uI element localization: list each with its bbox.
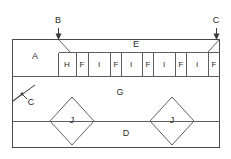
strip-cell-label-9: F	[212, 60, 217, 69]
strip-cell-label-5: F	[146, 60, 151, 69]
region-e-label: E	[133, 39, 139, 49]
region-g-label: G	[116, 87, 123, 97]
callout-b-label: B	[55, 15, 61, 25]
figure-canvas: H F I F I F I F I F J J A E G D B C	[0, 0, 231, 159]
callout-c-top-label: C	[213, 15, 220, 25]
strip-cell-label-6: I	[163, 60, 165, 69]
strip-cell-label-2: I	[98, 60, 100, 69]
strip-cell-label-1: F	[80, 60, 85, 69]
strip-cell-label-0: H	[64, 60, 70, 69]
strip-cell-dividers	[77, 53, 209, 77]
region-a-label: A	[32, 51, 38, 61]
callout-c-left-label: C	[28, 97, 35, 107]
region-d-label: D	[123, 128, 130, 138]
chamfer-right	[208, 40, 220, 53]
strip-cell-label-4: I	[130, 60, 132, 69]
strip-cell-label-7: F	[179, 60, 184, 69]
sectional-layer-diagram: H F I F I F I F I F J J A E G D B C	[0, 0, 231, 159]
strip-cell-label-8: I	[196, 60, 198, 69]
callout-c-top: C	[213, 15, 220, 40]
chamfer-left	[59, 40, 71, 53]
callout-c-left: C	[13, 85, 35, 107]
diamond-left-label: J	[70, 115, 75, 125]
callout-b: B	[55, 15, 62, 40]
strip-cell-label-3: F	[114, 60, 119, 69]
diamond-right-label: J	[170, 115, 175, 125]
